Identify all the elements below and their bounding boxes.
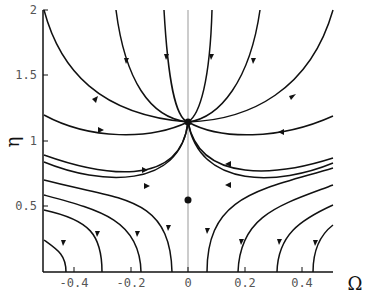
y-tick-1.5: 1.5 <box>15 68 37 82</box>
x-tick--0.2: -0.2 <box>117 276 146 290</box>
y-axis: 2 1.5 1 0.5 η <box>2 3 48 272</box>
x-axis: -0.4 -0.2 0 0.2 0.4 Ω <box>43 267 362 294</box>
x-tick-0: 0 <box>184 276 191 290</box>
y-tick-0.5: 0.5 <box>15 199 37 213</box>
phase-portrait-chart: 2 1.5 1 0.5 η -0.4 -0.2 0 0.2 0.4 Ω <box>0 0 368 294</box>
flow-arrows <box>61 54 318 246</box>
x-tick-0.4: 0.4 <box>291 276 313 290</box>
y-axis-label: η <box>2 137 23 148</box>
marked-point <box>185 197 192 204</box>
y-tick-1: 1 <box>30 134 37 148</box>
x-axis-label: Ω <box>348 273 363 294</box>
y-tick-2: 2 <box>30 3 37 17</box>
node-point <box>185 119 192 126</box>
x-tick--0.4: -0.4 <box>60 276 89 290</box>
x-tick-0.2: 0.2 <box>234 276 256 290</box>
